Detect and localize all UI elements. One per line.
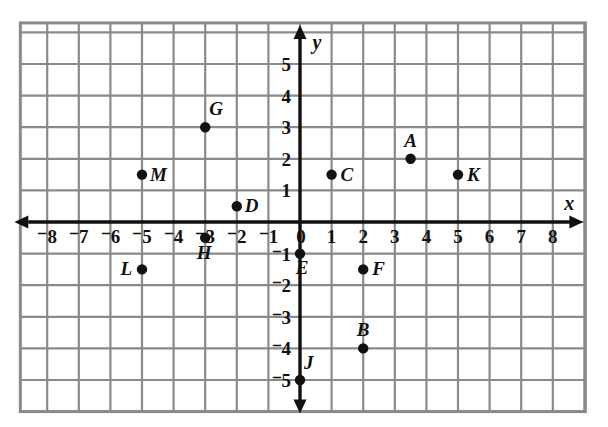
y-tick-label: ⁻4	[272, 338, 292, 359]
x-tick-label: ⁻6	[101, 226, 121, 247]
point-label: K	[466, 164, 481, 185]
point-marker	[232, 201, 242, 211]
point-marker	[295, 375, 305, 385]
x-tick-label: ⁻5	[132, 226, 152, 247]
x-tick-label: 5	[453, 226, 463, 247]
point-label: D	[244, 195, 259, 216]
x-tick-label: 0	[296, 226, 306, 247]
point-marker	[405, 154, 415, 164]
point-label: C	[341, 164, 354, 185]
point-marker	[453, 169, 463, 179]
x-tick-label: 3	[390, 226, 400, 247]
point-label: A	[403, 130, 417, 151]
y-tick-label: ⁻5	[272, 370, 292, 391]
point-marker	[200, 122, 210, 132]
point-label: F	[371, 258, 385, 279]
coordinate-plane-svg: ⁻8⁻7⁻6⁻5⁻4⁻3⁻2⁻1012345678 54321⁻1⁻2⁻3⁻4⁻…	[0, 0, 608, 427]
point-marker	[358, 343, 368, 353]
x-tick-label: ⁻7	[69, 226, 89, 247]
point-marker	[137, 264, 147, 274]
point-marker	[137, 169, 147, 179]
point-marker	[358, 264, 368, 274]
y-tick-label: 3	[282, 117, 292, 138]
y-axis-name-label: y	[311, 31, 322, 54]
coordinate-plane-figure: ⁻8⁻7⁻6⁻5⁻4⁻3⁻2⁻1012345678 54321⁻1⁻2⁻3⁻4⁻…	[0, 0, 608, 427]
x-tick-label: 2	[358, 226, 368, 247]
point-label: E	[295, 257, 309, 278]
point-label: J	[303, 352, 314, 373]
x-tick-label: 4	[422, 226, 432, 247]
point-label: H	[196, 242, 213, 263]
point-marker	[326, 169, 336, 179]
x-tick-label: 7	[516, 226, 526, 247]
x-tick-label: 1	[327, 226, 337, 247]
point-label: M	[149, 164, 168, 185]
x-tick-label: 8	[548, 226, 558, 247]
y-tick-label: 4	[282, 86, 292, 107]
y-tick-label: 2	[282, 149, 292, 170]
y-tick-label: ⁻2	[272, 275, 292, 296]
x-tick-label: 6	[485, 226, 495, 247]
point-label: B	[356, 319, 370, 340]
point-label: L	[119, 258, 132, 279]
x-axis-name-label: x	[563, 192, 574, 214]
x-tick-label: ⁻2	[227, 226, 247, 247]
y-tick-label: 1	[282, 180, 292, 201]
y-tick-label: ⁻1	[272, 244, 292, 265]
x-tick-label: ⁻4	[164, 226, 184, 247]
y-tick-label: ⁻3	[272, 307, 292, 328]
x-tick-label: ⁻8	[37, 226, 57, 247]
y-tick-label: 5	[282, 54, 292, 75]
point-label: G	[209, 98, 223, 119]
